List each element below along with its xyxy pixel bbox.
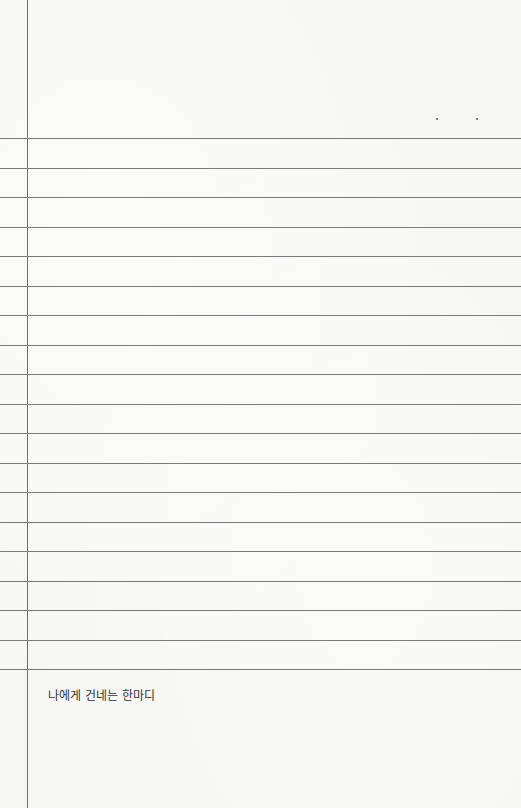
rule-line [0, 374, 521, 375]
rule-line [0, 463, 521, 464]
rule-line [0, 256, 521, 257]
rule-line [0, 315, 521, 316]
rule-line [0, 197, 521, 198]
rule-line [0, 227, 521, 228]
notebook-page: 나에게 건네는 한마디 [0, 0, 521, 808]
rule-line [0, 433, 521, 434]
rule-line [0, 669, 521, 670]
rule-line [0, 640, 521, 641]
rule-line [0, 610, 521, 611]
rule-line [0, 345, 521, 346]
rule-line [0, 522, 521, 523]
rule-line [0, 286, 521, 287]
rule-line [0, 404, 521, 405]
decorative-dot [476, 118, 478, 120]
rule-line [0, 581, 521, 582]
rule-line [0, 168, 521, 169]
rule-line [0, 551, 521, 552]
rule-line [0, 492, 521, 493]
rule-line [0, 138, 521, 139]
decorative-dot [436, 118, 438, 120]
page-caption: 나에게 건네는 한마디 [48, 686, 155, 703]
